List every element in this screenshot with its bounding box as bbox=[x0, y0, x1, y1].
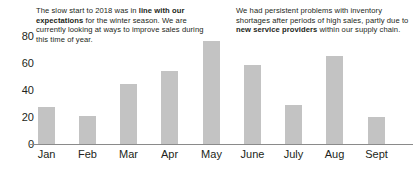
body-text: The slow start to 2018 was in bbox=[36, 6, 139, 15]
x-tick-label-apr: Apr bbox=[161, 148, 178, 160]
bar-june[interactable] bbox=[244, 65, 261, 144]
annotation-left-commentary: The slow start to 2018 was in line with … bbox=[36, 6, 212, 45]
x-tick-label-mar: Mar bbox=[119, 148, 138, 160]
x-tick-label-sept: Sept bbox=[365, 148, 388, 160]
annotation-right-commentary: We had persistent problems with inventor… bbox=[236, 6, 414, 35]
x-tick-label-aug: Aug bbox=[325, 148, 345, 160]
x-tick-label-june: June bbox=[241, 148, 265, 160]
bar-july[interactable] bbox=[285, 105, 302, 144]
x-tick-label-feb: Feb bbox=[78, 148, 97, 160]
bar-jan[interactable] bbox=[38, 107, 55, 144]
bar-mar[interactable] bbox=[120, 84, 137, 144]
bar-may[interactable] bbox=[203, 41, 220, 144]
body-text: We had persistent problems with inventor… bbox=[236, 6, 408, 25]
y-tick-label-80: 80 bbox=[10, 30, 34, 42]
bar-chart: 0 20 40 60 80 Jan Feb Mar Apr May June J… bbox=[0, 0, 415, 180]
y-tick-label-60: 60 bbox=[10, 57, 34, 69]
bar-apr[interactable] bbox=[161, 71, 178, 144]
x-tick-label-july: July bbox=[284, 148, 304, 160]
x-tick-label-may: May bbox=[201, 148, 222, 160]
bar-sept[interactable] bbox=[368, 117, 385, 144]
y-tick-label-40: 40 bbox=[10, 84, 34, 96]
emphasis-text: new service providers bbox=[236, 25, 317, 34]
bar-aug[interactable] bbox=[326, 56, 343, 144]
body-text: within our supply chain. bbox=[317, 25, 400, 34]
bar-feb[interactable] bbox=[79, 116, 96, 145]
x-axis-line bbox=[30, 144, 413, 145]
y-tick-label-20: 20 bbox=[10, 111, 34, 123]
x-tick-label-jan: Jan bbox=[38, 148, 56, 160]
